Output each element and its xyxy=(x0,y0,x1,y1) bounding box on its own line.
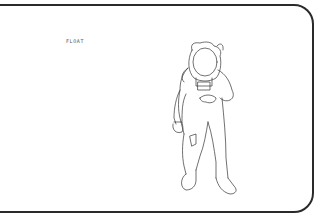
card-frame xyxy=(0,4,314,213)
astronaut-illustration xyxy=(160,38,250,208)
caption-label: FLOAT xyxy=(66,38,84,44)
